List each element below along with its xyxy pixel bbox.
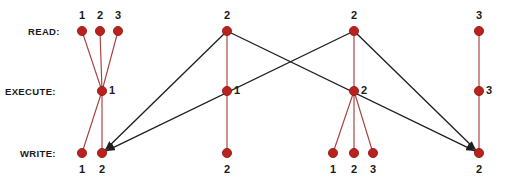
node-label-e2: 1 <box>234 84 240 96</box>
node-label-r1a: 1 <box>79 9 85 21</box>
node-label-e1: 1 <box>109 84 115 96</box>
node-label-w3a: 1 <box>330 163 336 175</box>
node-r2[interactable] <box>222 26 231 35</box>
node-w1a[interactable] <box>77 148 86 157</box>
node-r1b[interactable] <box>95 26 104 35</box>
node-r4[interactable] <box>474 26 483 35</box>
edge-r1b-e1 <box>100 31 102 91</box>
edge-layer <box>0 0 509 185</box>
node-r3[interactable] <box>349 26 358 35</box>
edge-e3-w3a <box>333 91 354 153</box>
node-label-r4: 3 <box>476 9 482 21</box>
node-label-w3b: 2 <box>351 163 357 175</box>
node-label-w1b: 2 <box>99 163 105 175</box>
edge-e1-w1a <box>82 91 102 153</box>
node-label-w4: 2 <box>476 163 482 175</box>
node-w3b[interactable] <box>349 148 358 157</box>
node-w1b[interactable] <box>97 148 106 157</box>
node-w3a[interactable] <box>328 148 337 157</box>
node-r1c[interactable] <box>113 26 122 35</box>
edge-r1c-e1 <box>102 31 118 91</box>
inter-cluster-edges <box>106 31 476 151</box>
node-label-e4: 3 <box>486 84 492 96</box>
node-label-w1a: 1 <box>79 163 85 175</box>
node-w4[interactable] <box>474 148 483 157</box>
node-label-r2: 2 <box>224 9 230 21</box>
node-w3c[interactable] <box>368 148 377 157</box>
edge-r2-w1b <box>106 31 227 150</box>
node-e2[interactable] <box>222 86 231 95</box>
row-label-execute: EXECUTE: <box>5 86 56 97</box>
node-w2[interactable] <box>222 148 231 157</box>
node-label-w2: 2 <box>224 163 230 175</box>
node-e3[interactable] <box>349 86 358 95</box>
node-label-r1c: 3 <box>115 9 121 21</box>
node-e1[interactable] <box>97 86 106 95</box>
node-r1a[interactable] <box>77 26 86 35</box>
node-label-r1b: 2 <box>97 9 103 21</box>
node-layer <box>77 26 483 157</box>
node-label-r3: 2 <box>351 9 357 21</box>
node-e4[interactable] <box>474 86 483 95</box>
node-label-w3c: 3 <box>370 163 376 175</box>
row-label-write: WRITE: <box>20 148 56 159</box>
node-label-e3: 2 <box>361 84 367 96</box>
edge-r3-w4 <box>354 31 475 150</box>
edge-r1a-e1 <box>82 31 102 91</box>
diagram-canvas: 12311221222123332READ:EXECUTE:WRITE: <box>0 0 509 185</box>
intra-cluster-edges <box>82 31 479 153</box>
row-label-read: READ: <box>28 26 60 37</box>
